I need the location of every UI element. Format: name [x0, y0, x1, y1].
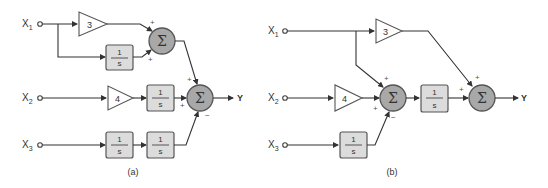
- svg-text:1: 1: [117, 135, 122, 144]
- svg-text:−: −: [205, 111, 210, 120]
- svg-text:s: s: [433, 101, 437, 110]
- svg-text:1: 1: [158, 135, 163, 144]
- input-x3-a: X3: [22, 139, 42, 152]
- summing-junction-b2: Σ: [469, 85, 495, 111]
- integrator-block-b1: 1 s: [421, 85, 448, 112]
- input-port-icon: [38, 22, 43, 27]
- svg-text:+: +: [150, 18, 155, 27]
- svg-text:3: 3: [383, 27, 388, 37]
- svg-text:3: 3: [87, 20, 92, 30]
- svg-text:+: +: [148, 55, 153, 64]
- svg-text:1: 1: [158, 88, 163, 97]
- svg-text:+: +: [459, 85, 464, 94]
- svg-text:X3: X3: [22, 139, 33, 152]
- svg-text:1: 1: [117, 48, 122, 57]
- integrator-block-a4: 1 s: [147, 132, 174, 158]
- output-y-b: Y: [521, 93, 527, 103]
- integrator-block-a3: 1 s: [106, 132, 133, 158]
- svg-text:s: s: [118, 59, 122, 68]
- gain-block-3-a: 3: [79, 12, 107, 36]
- summing-junction-b1: Σ: [380, 85, 406, 111]
- summing-junction-a2: Σ: [187, 85, 213, 111]
- svg-text:−: −: [391, 113, 396, 122]
- svg-text:Σ: Σ: [477, 90, 487, 106]
- svg-text:+: +: [180, 101, 185, 110]
- input-x1-a: X1: [22, 18, 42, 31]
- svg-text:s: s: [118, 147, 122, 156]
- svg-text:1: 1: [432, 88, 437, 97]
- integrator-block-a1: 1 s: [106, 45, 133, 70]
- svg-text:+: +: [187, 75, 192, 84]
- svg-text:Σ: Σ: [388, 90, 398, 106]
- svg-text:X3: X3: [268, 139, 279, 152]
- svg-text:+: +: [475, 73, 480, 82]
- input-port-icon: [283, 96, 288, 101]
- svg-text:4: 4: [115, 94, 120, 104]
- panel-b: X1 3 X2 4 Σ + + −: [268, 19, 527, 177]
- summing-junction-a1: Σ: [149, 28, 175, 54]
- svg-text:s: s: [159, 147, 163, 156]
- input-port-icon: [38, 96, 43, 101]
- integrator-block-b2: 1 s: [340, 132, 367, 158]
- svg-text:X1: X1: [268, 25, 279, 38]
- gain-block-3-b: 3: [376, 19, 402, 43]
- input-port-icon: [283, 29, 288, 34]
- svg-text:1: 1: [351, 135, 356, 144]
- caption-a: (a): [128, 167, 139, 177]
- svg-text:s: s: [159, 100, 163, 109]
- svg-text:Σ: Σ: [157, 33, 167, 49]
- input-port-icon: [38, 143, 43, 148]
- svg-text:4: 4: [342, 94, 347, 104]
- block-diagrams: X1 3 1 s Σ + + X2: [0, 0, 548, 188]
- input-x1-b: X1: [268, 25, 287, 38]
- svg-text:s: s: [352, 147, 356, 156]
- integrator-block-a2: 1 s: [147, 85, 174, 111]
- caption-b: (b): [387, 167, 398, 177]
- svg-text:+: +: [373, 104, 378, 113]
- svg-text:X2: X2: [268, 92, 279, 105]
- svg-text:+: +: [384, 74, 389, 83]
- output-y-a: Y: [237, 93, 243, 103]
- svg-text:X2: X2: [22, 92, 33, 105]
- gain-block-4-a: 4: [108, 86, 133, 110]
- input-x2-a: X2: [22, 92, 42, 105]
- input-x3-b: X3: [268, 139, 287, 152]
- input-x2-b: X2: [268, 92, 287, 105]
- svg-text:Σ: Σ: [195, 90, 205, 106]
- gain-block-4-b: 4: [335, 85, 362, 111]
- svg-text:X1: X1: [22, 18, 33, 31]
- input-port-icon: [283, 143, 288, 148]
- panel-a: X1 3 1 s Σ + + X2: [22, 12, 243, 177]
